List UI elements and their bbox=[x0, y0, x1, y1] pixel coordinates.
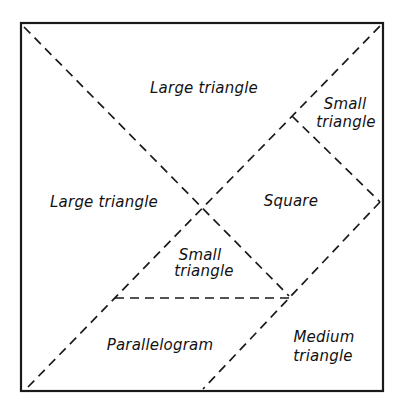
label-medium-triangle-line2: triangle bbox=[293, 347, 352, 365]
label-small-triangle-middle-line2: triangle bbox=[174, 262, 233, 280]
tangram-diagram: Large triangle Large triangle Small tria… bbox=[0, 0, 400, 410]
cut-line-medium-triangle-edge bbox=[203, 202, 380, 389]
label-small-triangle-top-right-line2: triangle bbox=[316, 113, 375, 131]
label-medium-triangle-line1: Medium bbox=[293, 328, 354, 346]
label-square: Square bbox=[264, 192, 318, 210]
label-small-triangle-top-right-line1: Small bbox=[324, 95, 367, 113]
label-large-triangle-left: Large triangle bbox=[50, 193, 158, 211]
label-large-triangle-top: Large triangle bbox=[150, 79, 258, 97]
piece-labels: Large triangle Large triangle Small tria… bbox=[50, 79, 376, 365]
label-parallelogram: Parallelogram bbox=[107, 336, 214, 354]
